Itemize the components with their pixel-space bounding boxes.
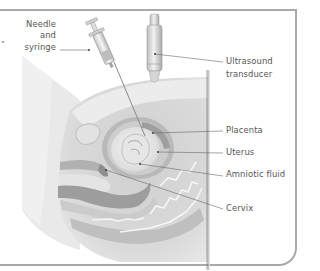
label-amniotic-fluid: Amniotic fluid [226, 169, 285, 180]
label-ultrasound: Ultrasound [226, 56, 273, 67]
label-cervix: Cervix [226, 203, 253, 214]
label-needle-line1: Needle [26, 19, 56, 30]
label-placenta: Placenta [226, 125, 263, 136]
label-transducer: transducer [226, 69, 272, 80]
transducer-leader-line [155, 54, 223, 62]
label-needle-line2: and [40, 30, 56, 41]
abdomen-cross-section [58, 70, 210, 270]
ultrasound-transducer [147, 14, 162, 82]
label-needle-line3: syringe [24, 42, 56, 53]
label-uterus: Uterus [226, 147, 254, 158]
